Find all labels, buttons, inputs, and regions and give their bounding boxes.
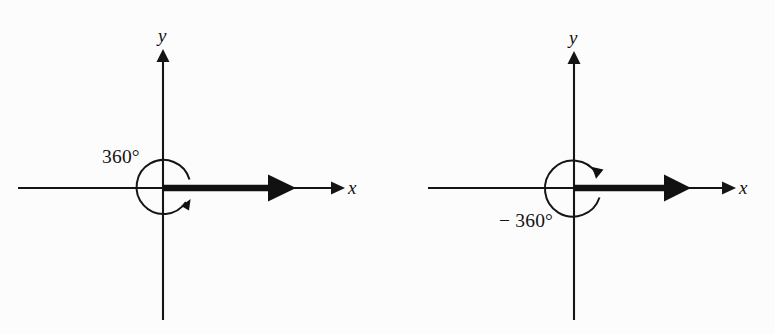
diagram-positive-rotation: 360° y x	[0, 0, 388, 334]
x-axis-label: x	[739, 178, 747, 197]
x-axis-label: x	[348, 178, 356, 197]
figure-canvas: 360° y x − 360° y x	[0, 0, 775, 334]
rotation-arrowhead-icon	[592, 167, 604, 179]
x-axis-arrowhead-icon	[722, 182, 736, 195]
x-axis-arrowhead-icon	[331, 182, 345, 195]
terminal-side-arrowhead-icon	[268, 175, 296, 202]
y-axis-label: y	[158, 26, 166, 45]
negative-rotation-graphic	[387, 0, 775, 334]
terminal-side-arrowhead-icon	[664, 175, 691, 202]
diagram-negative-rotation: − 360° y x	[387, 0, 775, 334]
y-axis-arrowhead-icon	[568, 51, 581, 64]
y-axis-label: y	[569, 28, 577, 47]
angle-measure-label: 360°	[102, 147, 140, 167]
y-axis-arrowhead-icon	[157, 49, 170, 62]
positive-rotation-graphic	[0, 0, 388, 334]
angle-measure-label: − 360°	[499, 211, 553, 231]
